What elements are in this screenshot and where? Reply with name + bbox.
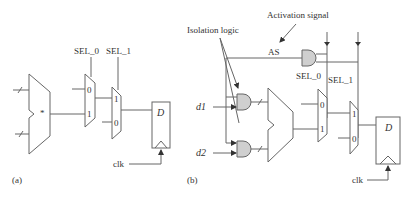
activation-arrow <box>280 24 296 42</box>
panel-b-label: (b) <box>187 175 198 185</box>
panel-b: Activation signal Isolation logic AS SEL… <box>187 10 400 185</box>
mux1-in0-label-a: 0 <box>87 85 92 95</box>
ff-d-label-a: D <box>156 107 165 118</box>
isolation-and-gate-2 <box>237 141 251 157</box>
mux2-in1-label-a: 1 <box>114 94 119 104</box>
activation-and-gate <box>302 50 316 66</box>
sel0-label-b: SEL_0 <box>296 71 322 81</box>
sel1-arrowhead-b <box>355 42 361 46</box>
sel0-label-a: SEL_0 <box>74 46 100 56</box>
clk-wire-b <box>367 166 388 180</box>
sel1-label-a: SEL_1 <box>106 46 131 56</box>
sel1-label-b: SEL_1 <box>328 75 353 85</box>
mux1-in1-label-a: 1 <box>87 109 92 119</box>
isolation-logic-label: Isolation logic <box>187 25 239 35</box>
d1-label: d1 <box>196 101 206 112</box>
mux2-in0-label-b: 0 <box>352 134 357 144</box>
clk-label-a: clk <box>113 159 124 169</box>
isolation-and-gate-1 <box>237 94 251 110</box>
mux1-b <box>318 89 327 142</box>
ff-d-label-b: D <box>384 122 393 133</box>
mux1-in0-label-b: 0 <box>320 100 325 110</box>
mux2-in1-label-b: 1 <box>352 109 357 119</box>
isolation-arrow-2 <box>220 38 239 123</box>
op-symbol-a: * <box>40 108 45 118</box>
mux1-a <box>85 74 95 127</box>
mux1-in1-label-b: 1 <box>320 124 325 134</box>
as-label: AS <box>268 47 280 57</box>
clk-label-b: clk <box>352 175 363 185</box>
clk-wire-a <box>129 150 161 164</box>
mux2-in0-label-a: 0 <box>114 118 119 128</box>
sel0-arrowhead-b <box>324 42 330 46</box>
panel-a-label: (a) <box>12 175 22 185</box>
circuit-diagram: * 0 1 SEL_0 1 0 SEL_1 D clk (a) <box>0 0 414 199</box>
alu-block-b <box>268 88 293 162</box>
activation-signal-label: Activation signal <box>267 10 329 20</box>
panel-a: * 0 1 SEL_0 1 0 SEL_1 D clk (a) <box>12 46 170 185</box>
d2-label: d2 <box>196 147 206 158</box>
